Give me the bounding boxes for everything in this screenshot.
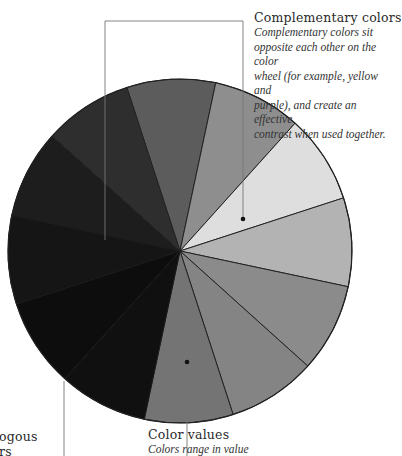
description-line: opposite each other on the color [254,40,394,69]
description-line: wheel (for example, yellow and [254,69,394,98]
complementary-marker-dot [241,217,246,222]
description-line: purple), and create an effective [254,98,394,127]
color-values-title: Color values [148,427,268,442]
complementary-colors-callout: Complementary colors Complementary color… [254,10,394,141]
complementary-description: Complementary colors sit opposite each o… [254,25,394,141]
color-values-description: Colors range in value [148,442,268,456]
color-values-callout: Color values Colors range in value [148,427,268,456]
analogous-title-line: rs [0,444,59,456]
values-marker-dot [185,360,190,365]
description-line: contrast when used together. [254,127,394,142]
description-line: Complementary colors sit [254,25,394,40]
analogous-colors-callout: ogous rs [0,429,59,456]
analogous-title-line: ogous [0,429,59,444]
complementary-title: Complementary colors [254,10,394,25]
